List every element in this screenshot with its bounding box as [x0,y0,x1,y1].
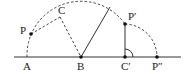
label-c-prime: C′ [121,60,131,72]
segment-cb [60,17,81,57]
point-p-double-prime [155,55,159,59]
point-b [79,55,83,59]
segment-pc [31,17,60,34]
point-p [29,32,33,36]
label-b: B [77,60,84,72]
segment-bp-prime [81,7,110,57]
point-p-prime [123,22,127,26]
label-p: P [20,24,26,36]
label-c: C [58,4,65,16]
label-p-prime: P′ [128,10,137,22]
label-p-double-prime: P″ [152,60,163,72]
small-dashed-arc [125,24,157,57]
label-a: A [23,60,31,72]
rotation-diagram: A B C P P′ C′ P″ [0,0,190,74]
point-c-prime [123,55,127,59]
large-dashed-arc [27,1,125,57]
